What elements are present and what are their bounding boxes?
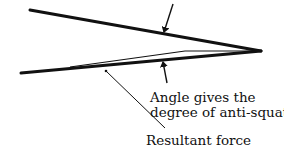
angle-arrow-top-icon	[164, 4, 173, 32]
angle-label-line2: degree of anti-squat	[150, 104, 284, 120]
anti-squat-diagram: Angle gives the degree of anti-squat Res…	[0, 0, 284, 156]
upper-line	[30, 10, 261, 51]
angle-arrow-bottom-icon	[163, 62, 167, 83]
lower-line	[21, 51, 261, 73]
resultant-force-label: Resultant force	[146, 132, 251, 148]
angle-label-line1: Angle gives the	[149, 89, 256, 105]
